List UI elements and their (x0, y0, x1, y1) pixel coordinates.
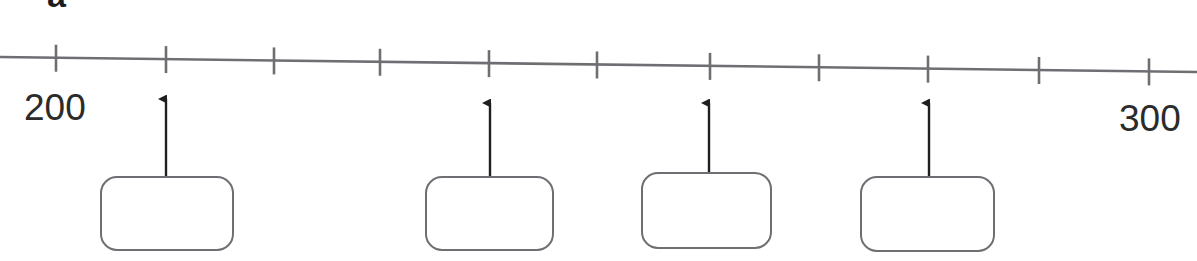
answer-box[interactable] (860, 176, 995, 252)
axis-end-label: 300 (1119, 100, 1181, 137)
number-line-figure: a 200 300 (0, 0, 1197, 261)
answer-box[interactable] (425, 176, 554, 251)
axis-start-label: 200 (24, 89, 86, 126)
answer-box-layer (0, 0, 1197, 261)
answer-box[interactable] (641, 172, 772, 249)
answer-box[interactable] (100, 176, 234, 251)
